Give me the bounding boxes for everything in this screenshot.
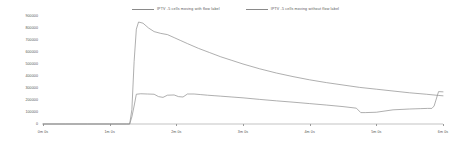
series-line-without-flow-label [43, 92, 443, 124]
chart-container: IPTV -5 cells moving with flow label IPT… [0, 0, 471, 143]
series-line-with-flow-label [43, 22, 443, 124]
plot-area [0, 0, 471, 143]
